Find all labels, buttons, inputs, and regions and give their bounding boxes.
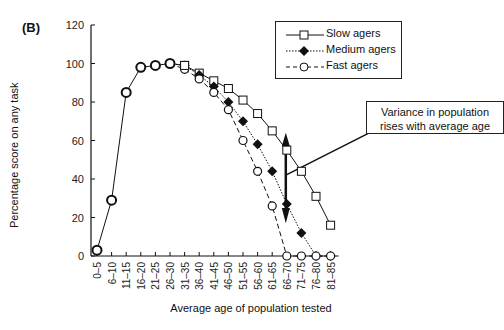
filled-diamond-marker-icon: [284, 44, 332, 58]
open-circle-marker-icon: [268, 202, 276, 210]
x-tick-label: 31–35: [180, 262, 191, 290]
x-tick-label: 41–45: [209, 262, 220, 290]
open-square-marker-icon: [297, 167, 305, 175]
open-circle-marker-icon: [122, 88, 131, 97]
legend-label: Fast agers: [326, 59, 378, 71]
annotation-line-2: rises with average age: [367, 119, 503, 133]
variance-annotation: Variance in population rises with averag…: [366, 101, 504, 134]
x-tick-label: 51–55: [238, 262, 249, 290]
x-tick-label: 66–70: [282, 262, 293, 290]
x-tick-label: 0–5: [92, 262, 103, 279]
series-line-fast-agers: [170, 64, 331, 257]
open-circle-marker-icon: [210, 88, 218, 96]
open-circle-marker-icon: [312, 252, 320, 260]
legend-item-medium: Medium agers: [276, 43, 401, 59]
open-square-marker-icon: [254, 110, 262, 118]
y-tick-label: 100: [66, 58, 84, 70]
arrow-down-icon: [282, 208, 290, 223]
y-tick-label: 40: [72, 173, 84, 185]
open-circle-marker-icon: [327, 252, 335, 260]
open-square-marker-icon: [239, 96, 247, 104]
chart-legend: Slow agers Medium agers Fast agers: [275, 21, 402, 79]
legend-label: Slow agers: [326, 27, 380, 39]
open-square-marker-icon: [284, 28, 332, 42]
open-circle-marker-icon: [166, 59, 175, 68]
open-square-marker-icon: [312, 192, 320, 200]
open-square-marker-icon: [181, 61, 189, 69]
y-tick-label: 60: [72, 135, 84, 147]
open-circle-marker-icon: [195, 75, 203, 83]
open-circle-marker-icon: [284, 60, 332, 74]
x-tick-label: 26–30: [165, 262, 176, 290]
y-tick-label: 120: [66, 19, 84, 31]
x-tick-label: 6–10: [107, 262, 118, 285]
filled-diamond-marker-icon: [253, 139, 263, 149]
x-tick-label: 56–60: [253, 262, 264, 290]
open-circle-marker-icon: [283, 252, 291, 260]
legend-item-slow: Slow agers: [276, 27, 401, 43]
open-square-marker-icon: [283, 146, 291, 154]
open-circle-marker-icon: [239, 137, 247, 145]
x-tick-label: 76–80: [311, 262, 322, 290]
open-circle-marker-icon: [224, 106, 232, 114]
legend-label: Medium agers: [326, 43, 396, 55]
arrow-up-icon: [282, 133, 290, 146]
y-tick-label: 80: [72, 96, 84, 108]
open-circle-marker-icon: [151, 61, 160, 70]
series-line-medium-agers: [170, 64, 331, 257]
x-tick-label: 71–75: [296, 262, 307, 290]
filled-diamond-marker-icon: [267, 166, 277, 176]
y-axis-label: Percentage score on any task: [8, 82, 20, 228]
filled-diamond-marker-icon: [238, 116, 248, 126]
filled-diamond-marker-icon: [296, 228, 306, 238]
x-tick-label: 46–50: [223, 262, 234, 290]
filled-diamond-marker-icon: [282, 199, 292, 209]
open-circle-marker-icon: [297, 252, 305, 260]
open-circle-marker-icon: [136, 63, 145, 72]
open-square-marker-icon: [327, 221, 335, 229]
x-tick-label: 36–40: [194, 262, 205, 290]
x-tick-label: 61–65: [267, 262, 278, 290]
x-tick-label: 11–15: [121, 262, 132, 290]
x-tick-label: 81–85: [326, 262, 337, 290]
x-axis-label: Average age of population tested: [0, 302, 462, 314]
x-tick-label: 21–25: [150, 262, 161, 290]
legend-item-fast: Fast agers: [276, 59, 401, 75]
y-tick-label: 0: [78, 250, 84, 262]
y-tick-label: 20: [72, 212, 84, 224]
open-circle-marker-icon: [254, 167, 262, 175]
annotation-line-1: Variance in population: [367, 105, 503, 119]
open-square-marker-icon: [268, 127, 276, 135]
open-square-marker-icon: [224, 85, 232, 93]
open-circle-marker-icon: [107, 196, 116, 205]
x-tick-label: 16–20: [136, 262, 147, 290]
open-circle-marker-icon: [93, 246, 102, 255]
